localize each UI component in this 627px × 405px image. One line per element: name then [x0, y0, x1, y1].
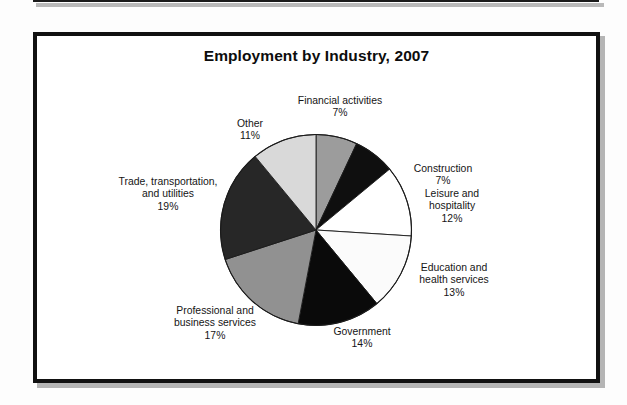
pie-label-other: Other 11%	[209, 118, 291, 143]
pie-label-construction: Construction 7%	[385, 163, 501, 188]
pie-label-text-line1: Professional and	[176, 305, 253, 316]
pie-label-percent: 13%	[398, 287, 510, 299]
pie-label-text-line2: health services	[419, 274, 488, 285]
pie-label-text-line2: hospitality	[429, 200, 475, 211]
pie-label-text: Other	[237, 118, 263, 129]
previous-figure-drop-shadow	[36, 3, 604, 7]
pie-label-text: Financial activities	[298, 95, 382, 106]
pie-label-percent: 7%	[385, 175, 501, 187]
pie-label-leisure-and-hospitality: Leisure and hospitality 12%	[400, 188, 504, 225]
pie-label-education-and-health-services: Education and health services 13%	[398, 262, 510, 299]
pie-label-government: Government 14%	[307, 326, 417, 351]
pie-label-financial-activities: Financial activities 7%	[279, 95, 401, 120]
pie-label-percent: 11%	[209, 130, 291, 142]
pie-label-trade-transportation-and-utilities: Trade, transportation, and utilities 19%	[100, 176, 236, 213]
pie-label-percent: 7%	[279, 107, 401, 119]
pie-label-text-line1: Leisure and	[425, 188, 479, 199]
pie-label-professional-and-business-services: Professional and business services 17%	[150, 305, 280, 342]
pie-label-percent: 12%	[400, 213, 504, 225]
pie-chart	[219, 133, 413, 327]
pie-slice-group	[220, 135, 411, 326]
pie-label-text-line2: business services	[174, 317, 256, 328]
pie-chart-svg	[219, 133, 413, 327]
pie-label-text-line1: Education and	[421, 262, 487, 273]
pie-label-text-line1: Trade, transportation,	[119, 176, 218, 187]
pie-label-text-line2: and utilities	[142, 188, 194, 199]
pie-label-percent: 14%	[307, 338, 417, 350]
figure-drop-shadow-right	[600, 36, 605, 387]
pie-label-text: Government	[333, 326, 390, 337]
pie-label-percent: 17%	[150, 330, 280, 342]
pie-label-percent: 19%	[100, 201, 236, 213]
chart-title: Employment by Industry, 2007	[33, 47, 600, 65]
previous-figure-frame-edge	[33, 0, 599, 2]
pie-label-text: Construction	[414, 163, 472, 174]
figure-drop-shadow-bottom	[37, 383, 605, 388]
